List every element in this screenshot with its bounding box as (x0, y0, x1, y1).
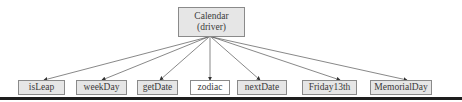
root-label-line1: Calendar (194, 11, 228, 22)
edge-to-memorialday (212, 37, 407, 80)
node-label: getDate (143, 82, 173, 93)
friday13th-node: Friday13th (302, 80, 357, 95)
edge-to-friday13th (212, 37, 340, 80)
zodiac-node: zodiac (190, 80, 230, 95)
node-label: MemorialDay (374, 82, 427, 93)
node-label: weekDay (84, 82, 120, 93)
edge-to-nextdate (211, 37, 260, 80)
getdate-node: getDate (137, 80, 178, 95)
edge-to-isleap (44, 37, 208, 80)
root-label-line2: (driver) (197, 22, 226, 33)
bottom-rule (0, 97, 462, 100)
nextdate-node: nextDate (237, 80, 287, 95)
memorialday-node: MemorialDay (370, 80, 432, 95)
node-label: Friday13th (309, 82, 351, 93)
edge-to-weekday (102, 37, 208, 80)
weekday-node: weekDay (76, 80, 127, 95)
calendar-driver-node: Calendar (driver) (178, 7, 245, 37)
isleap-node: isLeap (18, 80, 65, 95)
node-label: nextDate (245, 82, 279, 93)
node-label: zodiac (198, 82, 223, 93)
node-label: isLeap (29, 82, 54, 93)
